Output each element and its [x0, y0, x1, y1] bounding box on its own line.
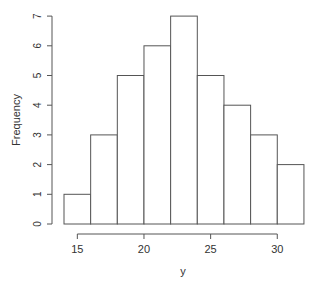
y-tick-label: 4 [32, 102, 43, 108]
x-tick-label: 20 [138, 243, 150, 255]
histogram-bar [224, 105, 251, 224]
x-axis-label: y [180, 265, 186, 277]
x-tick-label: 25 [205, 243, 217, 255]
y-axis-label: Frequency [10, 94, 22, 146]
x-tick-label: 15 [71, 243, 83, 255]
histogram-bar [144, 46, 171, 224]
histogram-bar [171, 16, 198, 224]
y-axis: 01234567 [32, 13, 52, 227]
y-tick-label: 5 [32, 72, 43, 78]
x-axis: 15202530 [71, 234, 283, 255]
histogram-bar [64, 194, 91, 224]
y-tick-label: 0 [32, 221, 43, 227]
histogram-bar [277, 165, 304, 224]
y-tick-label: 6 [32, 43, 43, 49]
y-tick-label: 1 [32, 191, 43, 197]
histogram-chart: 15202530 01234567 y Frequency [0, 0, 311, 286]
histogram-bar [117, 76, 144, 225]
histogram-bar [251, 135, 278, 224]
y-tick-label: 7 [32, 13, 43, 19]
y-tick-label: 2 [32, 161, 43, 167]
histogram-bar [197, 76, 224, 225]
y-tick-label: 3 [32, 132, 43, 138]
histogram-bars [64, 16, 304, 224]
histogram-bar [91, 135, 118, 224]
x-tick-label: 30 [271, 243, 283, 255]
